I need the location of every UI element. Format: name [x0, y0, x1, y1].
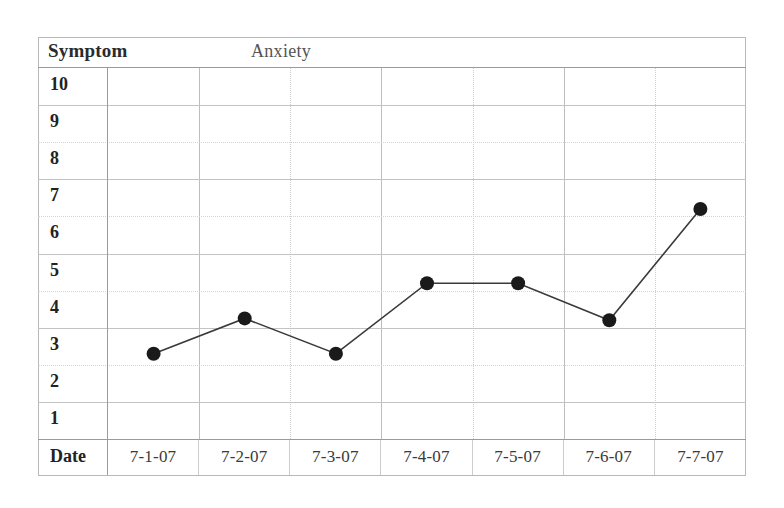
data-point-marker[interactable]	[693, 202, 707, 216]
date-cell[interactable]: 7-1-07	[108, 440, 199, 475]
date-cell-label: 7-5-07	[473, 447, 563, 467]
date-cell-label: 7-7-07	[655, 447, 746, 467]
data-point-marker[interactable]	[420, 276, 434, 290]
data-point-marker[interactable]	[511, 276, 525, 290]
date-cell-label: 7-6-07	[564, 447, 654, 467]
date-cell[interactable]: 7-5-07	[473, 440, 564, 475]
data-point-marker[interactable]	[329, 347, 343, 361]
date-row-label: Date	[50, 446, 86, 467]
date-cell[interactable]: 7-4-07	[381, 440, 472, 475]
date-cell-label: 7-4-07	[381, 447, 471, 467]
date-cell-label: 7-2-07	[199, 447, 289, 467]
date-row-label-cell: Date	[38, 440, 108, 475]
date-cell[interactable]: 7-2-07	[199, 440, 290, 475]
chart-topic-title: Anxiety	[251, 41, 311, 62]
date-row: Date 7-1-077-2-077-3-077-4-077-5-077-6-0…	[38, 439, 746, 475]
date-cell[interactable]: 7-7-07	[655, 440, 746, 475]
data-point-marker[interactable]	[147, 347, 161, 361]
data-point-marker[interactable]	[238, 311, 252, 325]
date-cell[interactable]: 7-6-07	[564, 440, 655, 475]
plot-area: 10987654321	[38, 68, 746, 439]
symptom-axis-title: Symptom	[48, 40, 128, 62]
date-cell-label: 7-1-07	[108, 447, 198, 467]
chart-header-row: Symptom Anxiety	[38, 37, 746, 68]
data-point-marker[interactable]	[602, 313, 616, 327]
symptom-tracking-chart: Symptom Anxiety 10987654321 Date 7-1-077…	[38, 37, 746, 476]
anxiety-series-plot	[38, 68, 746, 439]
date-cell-label: 7-3-07	[290, 447, 380, 467]
date-cell[interactable]: 7-3-07	[290, 440, 381, 475]
